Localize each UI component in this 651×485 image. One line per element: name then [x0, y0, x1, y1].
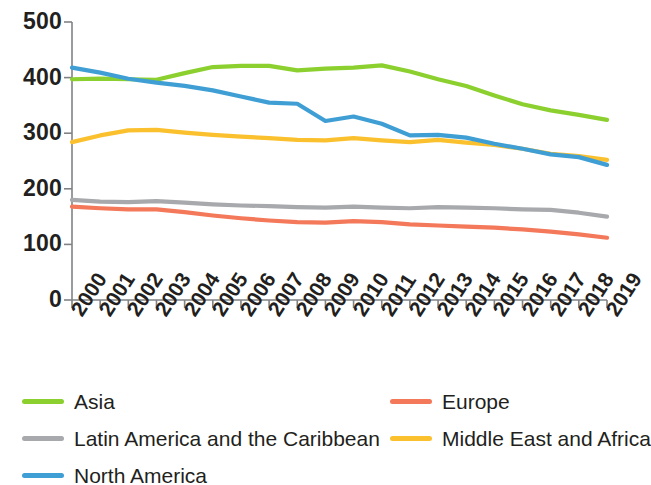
y-tick-label: 200 [4, 177, 62, 200]
axes [64, 22, 607, 308]
legend-item[interactable]: Asia [22, 388, 115, 414]
y-tick-label: 500 [4, 10, 62, 33]
legend-item[interactable]: North America [22, 462, 207, 485]
legend-label: North America [74, 465, 207, 485]
legend-item[interactable]: Middle East and Africa [390, 425, 651, 451]
legend-label: Europe [442, 391, 510, 412]
y-tick-label: 100 [4, 232, 62, 255]
legend-swatch-icon [390, 399, 432, 404]
x-axis-tick-labels: 2000200120022003200420052006200720082009… [0, 300, 632, 390]
series-line-middle-east-and-africa [72, 130, 607, 160]
legend-swatch-icon [22, 436, 64, 441]
chart-legend: AsiaEuropeLatin America and the Caribbea… [0, 380, 632, 485]
series-line-asia [72, 65, 607, 119]
legend-swatch-icon [22, 473, 64, 478]
legend-swatch-icon [390, 436, 432, 441]
y-tick-label: 300 [4, 121, 62, 144]
series-line-north-america [72, 68, 607, 165]
legend-item[interactable]: Europe [390, 388, 510, 414]
legend-label: Middle East and Africa [442, 428, 651, 449]
legend-item[interactable]: Latin America and the Caribbean [22, 425, 380, 451]
legend-label: Latin America and the Caribbean [74, 428, 380, 449]
series-lines [72, 65, 607, 237]
legend-label: Asia [74, 391, 115, 412]
legend-swatch-icon [22, 399, 64, 404]
y-tick-label: 400 [4, 66, 62, 89]
